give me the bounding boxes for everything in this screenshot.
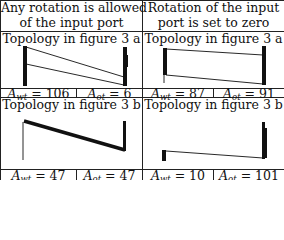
aot-subscript: ot — [228, 174, 237, 180]
awt-number: = 10 — [175, 168, 205, 180]
awt-subscript: wt — [20, 174, 31, 180]
aot-number: = 101 — [241, 168, 279, 180]
awt-number: = 87 — [175, 86, 205, 101]
beam-left — [162, 150, 166, 161]
aot-value: Aot = 47 — [77, 170, 142, 180]
awt-number: = 47 — [35, 168, 65, 180]
awt-subscript: wt — [17, 92, 28, 102]
truss-top — [166, 49, 263, 55]
aot-subscript: ot — [232, 92, 241, 102]
aot-subscript: ot — [97, 92, 106, 102]
aot-subscript: ot — [93, 174, 102, 180]
awt-subscript: wt — [160, 174, 171, 180]
beam-left — [163, 48, 167, 75]
aot-symbol: A — [88, 86, 97, 101]
awt-symbol: A — [151, 168, 160, 180]
truss-bottom — [166, 75, 263, 84]
awt-symbol: A — [7, 86, 16, 101]
awt-value: Awt = 47 — [1, 170, 76, 180]
aot-number: = 91 — [245, 86, 275, 101]
aot-symbol: A — [223, 86, 232, 101]
aot-value: Aot = 101 — [214, 170, 284, 180]
beam-right — [123, 121, 126, 151]
truss-thin — [166, 151, 263, 158]
aot-symbol: A — [84, 168, 93, 180]
truss-thick — [24, 121, 125, 150]
awt-value: Awt = 10 — [143, 170, 213, 180]
aot-number: = 47 — [105, 168, 135, 180]
aot-value: Aot = 6 — [77, 88, 142, 103]
beam-right — [262, 46, 266, 85]
topology-drawing-col1-3b — [23, 121, 126, 160]
aot-value: Aot = 91 — [214, 88, 284, 103]
awt-number: = 106 — [31, 86, 69, 101]
topology-drawing-col2-3b — [162, 122, 267, 161]
awt-value: Awt = 106 — [1, 88, 76, 103]
truss-top — [26, 47, 124, 77]
aot-symbol: A — [219, 168, 228, 180]
beam-right-tip — [126, 55, 128, 67]
beam-right-thick — [264, 128, 267, 158]
awt-symbol: A — [151, 86, 160, 101]
beam-left — [23, 46, 27, 86]
awt-value: Awt = 87 — [143, 88, 213, 103]
aot-number: = 6 — [109, 86, 131, 101]
truss-bottom — [26, 64, 124, 85]
topology-drawing-col1-3a — [23, 46, 128, 86]
awt-subscript: wt — [160, 92, 171, 102]
topology-drawing-col2-3a — [163, 46, 266, 85]
